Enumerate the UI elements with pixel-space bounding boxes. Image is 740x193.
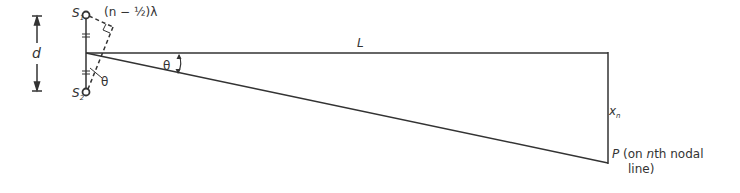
label-P: P (on nth nodal <box>612 147 704 161</box>
label-P-line2: line) <box>628 162 654 176</box>
arrow-up-icon <box>35 17 40 25</box>
label-d: d <box>32 46 41 60</box>
label-s2: S2 <box>72 86 84 105</box>
label-L: L <box>357 36 364 50</box>
label-s1: S1 <box>72 6 84 25</box>
label-xn: xn <box>609 104 621 123</box>
label-theta-large: θ <box>163 59 170 73</box>
label-theta-small: θ <box>101 75 108 89</box>
arrow-down-icon <box>35 82 40 90</box>
label-path-difference: (n − ½)λ <box>104 5 157 19</box>
